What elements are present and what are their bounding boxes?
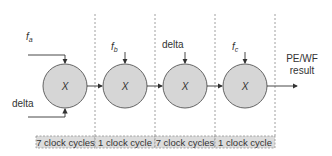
input-delta-arrow bbox=[28, 109, 65, 117]
node-3-label: X bbox=[181, 81, 189, 92]
input-fa-label: fa bbox=[26, 31, 33, 43]
input-delta2-label: delta bbox=[162, 39, 184, 50]
input-delta-label: delta bbox=[12, 98, 34, 109]
input-fb-label: fb bbox=[111, 41, 118, 53]
stage-4-label: 1 clock cycle bbox=[218, 137, 272, 148]
stage-1-label: 7 clock cycles bbox=[36, 137, 95, 148]
output-label-line1: PE/WF bbox=[286, 53, 318, 64]
node-4-label: X bbox=[241, 81, 249, 92]
multiplier-pipeline-diagram: fa delta X fb X delta X fc X PE/WF resul… bbox=[0, 0, 332, 156]
input-fc-label: fc bbox=[232, 41, 239, 53]
stage-timeline: 7 clock cycles 1 clock cycle 7 clock cyc… bbox=[36, 136, 275, 148]
output-label-line2: result bbox=[290, 65, 315, 76]
stage-3-label: 7 clock cycles bbox=[156, 137, 215, 148]
input-fa-arrow bbox=[28, 55, 65, 63]
node-2-label: X bbox=[121, 81, 129, 92]
stage-2-label: 1 clock cycle bbox=[98, 137, 152, 148]
node-1-label: X bbox=[61, 81, 69, 92]
